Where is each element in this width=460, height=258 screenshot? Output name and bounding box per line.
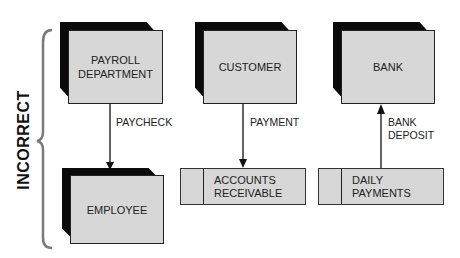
datastore-label-line1: ACCOUNTS bbox=[214, 174, 282, 187]
entity-label: BANK bbox=[373, 60, 403, 74]
datastore-label: DAILY PAYMENTS bbox=[342, 169, 411, 204]
curly-bracket-icon bbox=[37, 30, 52, 248]
flow-label-payment: PAYMENT bbox=[250, 116, 299, 129]
datastore-label-line2: PAYMENTS bbox=[352, 187, 411, 200]
entity-face: CUSTOMER bbox=[203, 30, 297, 104]
entity-employee: EMPLOYEE bbox=[62, 168, 164, 244]
entity-label: EMPLOYEE bbox=[87, 203, 148, 217]
flow-label-bank-deposit: BANK DEPOSIT bbox=[388, 116, 434, 142]
entity-face: EMPLOYEE bbox=[70, 175, 164, 244]
datastore-accounts-receivable: ACCOUNTS RECEIVABLE bbox=[180, 168, 306, 205]
arrow-up-icon bbox=[377, 104, 385, 114]
entity-bank: BANK bbox=[333, 22, 436, 104]
entity-customer: CUSTOMER bbox=[195, 22, 298, 104]
datastore-label-line2: RECEIVABLE bbox=[214, 187, 282, 200]
datastore-id-tab bbox=[181, 169, 204, 204]
datastore-daily-payments: DAILY PAYMENTS bbox=[318, 168, 444, 205]
entity-label: CUSTOMER bbox=[219, 60, 282, 74]
entity-payroll-department: PAYROLL DEPARTMENT bbox=[60, 22, 163, 104]
datastore-id-tab bbox=[319, 169, 342, 204]
flow-label-line2: DEPOSIT bbox=[388, 129, 434, 142]
arrow-down-icon bbox=[239, 159, 247, 168]
entity-face: BANK bbox=[341, 30, 435, 104]
datastore-label: ACCOUNTS RECEIVABLE bbox=[204, 169, 282, 204]
datastore-label-line1: DAILY bbox=[352, 174, 411, 187]
entity-label: PAYROLL DEPARTMENT bbox=[76, 53, 156, 81]
flow-label-paycheck: PAYCHECK bbox=[116, 116, 172, 129]
flow-label-line1: BANK bbox=[388, 116, 434, 129]
entity-face: PAYROLL DEPARTMENT bbox=[68, 30, 163, 104]
